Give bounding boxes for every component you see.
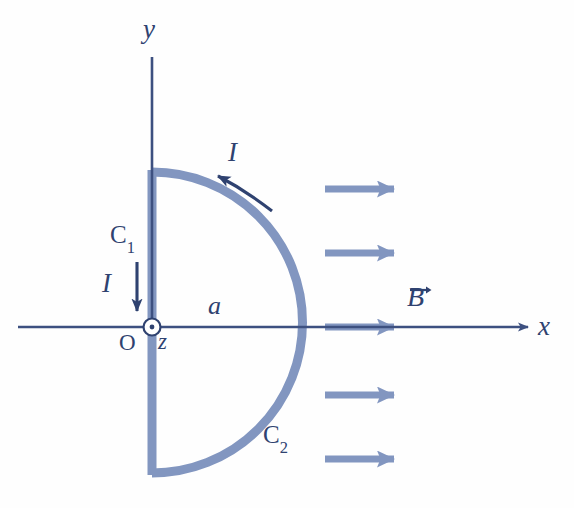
y-axis-label: y: [143, 16, 155, 43]
radius-label: a: [208, 293, 221, 319]
physics-diagram-figure: y x z O a C1 C2 I I B: [0, 0, 574, 508]
segment-label-c1: C1: [110, 222, 135, 253]
magnetic-field-arrows: [325, 189, 394, 459]
current-label-arc: I: [228, 139, 237, 166]
x-axis-label: x: [538, 313, 550, 340]
segment-label-c1-text: C: [110, 221, 127, 248]
segment-label-c1-subscript: 1: [127, 238, 135, 257]
origin-label: O: [119, 331, 136, 354]
segment-label-c2: C2: [263, 422, 288, 453]
z-axis-label: z: [158, 330, 167, 353]
current-label-straight: I: [102, 270, 111, 297]
segment-label-c2-subscript: 2: [280, 438, 288, 457]
coordinate-axes: [18, 57, 528, 327]
magnetic-field-label: B: [407, 283, 424, 311]
segment-label-c2-text: C: [263, 421, 280, 448]
